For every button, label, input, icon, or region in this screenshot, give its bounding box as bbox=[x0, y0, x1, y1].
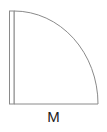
quarter-circle-outline bbox=[14, 11, 98, 104]
shape-label: M bbox=[0, 108, 107, 126]
edge-strip bbox=[10, 11, 15, 104]
